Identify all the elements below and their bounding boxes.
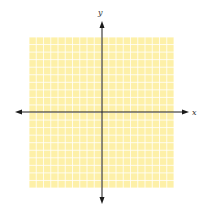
x-axis-left-arrow-icon <box>15 110 22 115</box>
x-axis-right-arrow-icon <box>182 110 189 115</box>
y-axis-label: y <box>97 8 103 17</box>
y-axis-up-arrow-icon <box>100 21 105 28</box>
y-axis-down-arrow-icon <box>100 197 105 204</box>
coordinate-plane: x y <box>0 0 208 211</box>
x-axis-label: x <box>192 108 197 117</box>
